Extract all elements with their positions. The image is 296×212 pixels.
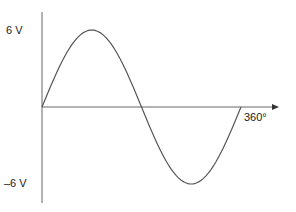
x-axis-arrow-icon (272, 104, 279, 110)
sine-chart (0, 0, 296, 212)
x-end-label: 360° (244, 111, 267, 123)
y-max-label: 6 V (6, 24, 23, 36)
y-min-label: –6 V (4, 177, 27, 189)
